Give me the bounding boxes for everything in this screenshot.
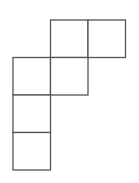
net-square-1 — [51, 20, 89, 58]
net-squares — [13, 20, 126, 170]
net-square-6 — [13, 133, 51, 171]
net-square-2 — [88, 20, 126, 58]
net-square-4 — [51, 58, 89, 96]
net-square-5 — [13, 95, 51, 133]
cube-net-diagram — [0, 0, 139, 183]
net-square-3 — [13, 58, 51, 96]
